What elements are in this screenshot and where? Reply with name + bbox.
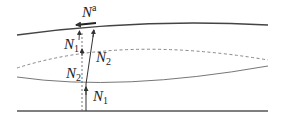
upper-boundary-line [17,23,268,35]
label-n1-lower-base: N [93,88,103,104]
label-n2-upper-base: N [96,49,106,65]
label-n2-upper: N2 [96,50,111,67]
dashed-interface-line [17,49,268,68]
label-n-a-sup: a [92,2,96,13]
label-n2-lower: N2 [66,66,81,83]
label-n1-lower-sub: 1 [103,95,108,106]
label-n2-lower-base: N [66,65,76,81]
label-n2-upper-sub: 2 [106,56,111,67]
label-n1-upper-sub: 1 [74,43,79,54]
label-n1-lower: N1 [93,89,108,106]
diagram-canvas [0,0,284,119]
label-n1-upper-base: N [64,36,74,52]
dashed-ray-arrow-upper [79,31,80,40]
label-n-a-base: N [82,4,92,20]
label-n-a: Na [82,3,96,20]
n-a-arrow [76,23,96,25]
label-n2-lower-sub: 2 [76,72,81,83]
solid-ray-arrow-upper [93,30,94,37]
solid-interface-line [17,66,268,82]
label-n1-upper: N1 [64,37,79,54]
